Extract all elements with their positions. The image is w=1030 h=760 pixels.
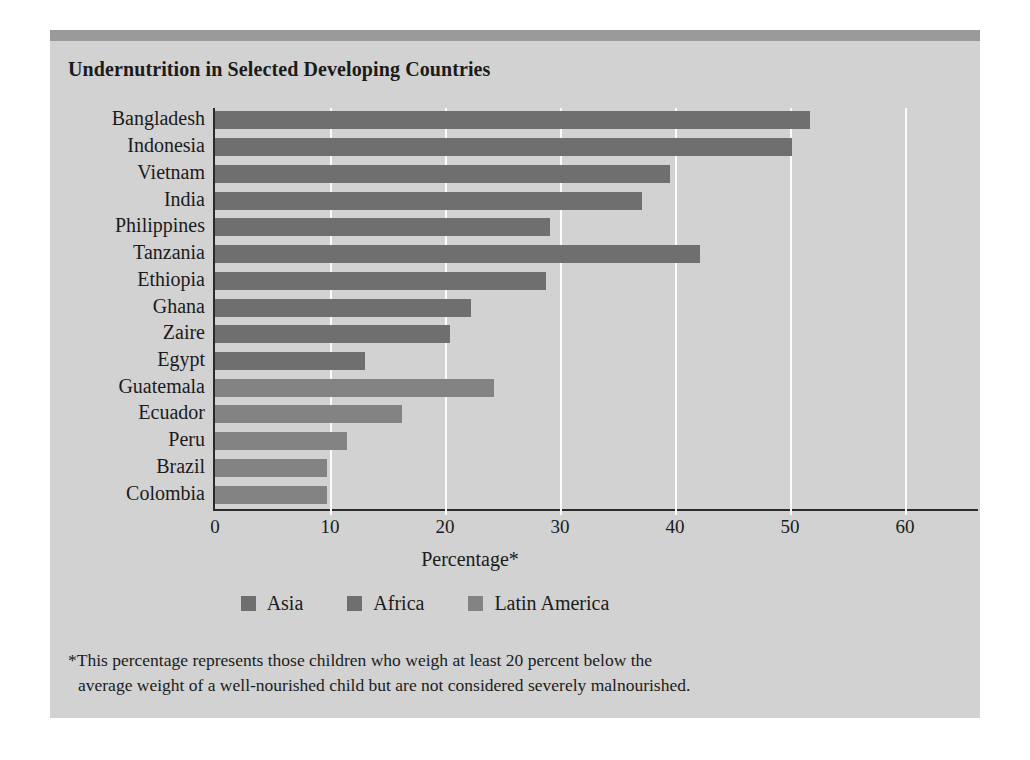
bar-bangladesh bbox=[215, 111, 810, 129]
gridline-50 bbox=[790, 108, 792, 509]
gridtick-30 bbox=[560, 509, 562, 515]
footnote: *This percentage represents those childr… bbox=[68, 648, 948, 698]
plot-area bbox=[215, 108, 905, 509]
category-label-tanzania: Tanzania bbox=[133, 241, 205, 264]
bar-guatemala bbox=[215, 379, 494, 397]
footnote-line-2: average weight of a well-nourished child… bbox=[68, 673, 948, 698]
category-label-guatemala: Guatemala bbox=[118, 375, 205, 398]
legend-item-africa: Africa bbox=[347, 592, 424, 615]
bar-philippines bbox=[215, 218, 550, 236]
category-label-vietnam: Vietnam bbox=[137, 161, 205, 184]
legend-swatch-icon bbox=[347, 596, 362, 611]
x-tick-label-10: 10 bbox=[321, 516, 340, 538]
chart-page: Undernutrition in Selected Developing Co… bbox=[0, 0, 1030, 760]
x-tick-label-60: 60 bbox=[896, 516, 915, 538]
bar-vietnam bbox=[215, 165, 670, 183]
gridline-40 bbox=[675, 108, 677, 509]
bar-peru bbox=[215, 432, 347, 450]
category-label-philippines: Philippines bbox=[115, 214, 205, 237]
category-axis-labels: BangladeshIndonesiaVietnamIndiaPhilippin… bbox=[0, 108, 205, 509]
x-tick-label-0: 0 bbox=[210, 516, 220, 538]
category-label-brazil: Brazil bbox=[156, 455, 205, 478]
bar-ethiopia bbox=[215, 272, 546, 290]
bar-tanzania bbox=[215, 245, 700, 263]
page-title: Undernutrition in Selected Developing Co… bbox=[68, 58, 490, 81]
bar-colombia bbox=[215, 486, 327, 504]
gridline-60 bbox=[905, 108, 907, 509]
x-axis-line bbox=[213, 509, 978, 511]
x-axis-title: Percentage* bbox=[0, 548, 1030, 571]
footnote-line-1: *This percentage represents those childr… bbox=[68, 650, 652, 670]
legend-swatch-icon bbox=[241, 596, 256, 611]
x-tick-label-50: 50 bbox=[781, 516, 800, 538]
bar-egypt bbox=[215, 352, 365, 370]
chart-legend: AsiaAfricaLatin America bbox=[0, 592, 1030, 615]
bar-zaire bbox=[215, 325, 450, 343]
legend-label: Latin America bbox=[494, 592, 609, 615]
legend-items: AsiaAfricaLatin America bbox=[241, 592, 610, 615]
x-tick-label-20: 20 bbox=[436, 516, 455, 538]
panel-top-bar bbox=[50, 30, 980, 41]
category-label-ethiopia: Ethiopia bbox=[137, 268, 205, 291]
gridtick-20 bbox=[445, 509, 447, 515]
x-tick-label-40: 40 bbox=[666, 516, 685, 538]
category-label-indonesia: Indonesia bbox=[127, 134, 205, 157]
gridtick-50 bbox=[790, 509, 792, 515]
category-label-ghana: Ghana bbox=[153, 295, 205, 318]
x-axis-title-text: Percentage* bbox=[421, 548, 519, 570]
category-label-india: India bbox=[164, 188, 205, 211]
category-label-bangladesh: Bangladesh bbox=[112, 107, 205, 130]
category-label-colombia: Colombia bbox=[126, 482, 205, 505]
bar-indonesia bbox=[215, 138, 792, 156]
gridtick-10 bbox=[330, 509, 332, 515]
category-label-egypt: Egypt bbox=[157, 348, 205, 371]
legend-swatch-icon bbox=[468, 596, 483, 611]
legend-item-asia: Asia bbox=[241, 592, 304, 615]
category-label-peru: Peru bbox=[168, 428, 205, 451]
bar-brazil bbox=[215, 459, 327, 477]
category-label-ecuador: Ecuador bbox=[138, 401, 205, 424]
category-label-zaire: Zaire bbox=[163, 321, 205, 344]
bar-ghana bbox=[215, 299, 471, 317]
legend-label: Asia bbox=[267, 592, 304, 615]
bar-ecuador bbox=[215, 405, 402, 423]
gridtick-40 bbox=[675, 509, 677, 515]
bar-india bbox=[215, 192, 642, 210]
legend-item-latin-america: Latin America bbox=[468, 592, 609, 615]
legend-label: Africa bbox=[373, 592, 424, 615]
x-tick-label-30: 30 bbox=[551, 516, 570, 538]
gridtick-60 bbox=[905, 509, 907, 515]
